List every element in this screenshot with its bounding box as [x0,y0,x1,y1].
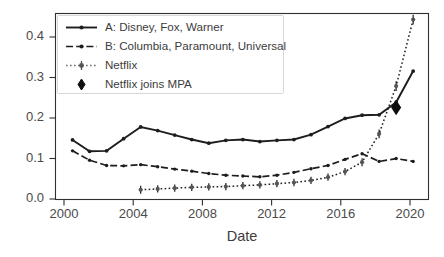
x-tick-label: 2012 [257,206,286,221]
legend: A: Disney, Fox, Warner B: Columbia, Para… [58,16,287,94]
data-point [88,149,92,153]
legend-label-series-b: B: Columbia, Paramount, Universal [105,39,286,52]
data-point [241,184,245,188]
data-point [207,185,211,189]
data-point [326,164,329,167]
data-point [105,149,109,153]
data-point [360,113,364,117]
data-point [360,152,363,155]
data-point [309,133,313,137]
data-point [275,138,279,142]
data-point [224,184,228,188]
data-point [292,171,295,174]
data-point [224,173,227,176]
data-point [292,138,296,142]
legend-label-netflix-joins-mpa: Netflix joins MPA [105,77,192,90]
data-point [258,175,261,178]
x-tick-label: 2016 [326,206,355,221]
y-tick-label: 0.3 [26,69,44,84]
data-point [309,178,313,182]
data-point [292,180,296,184]
data-point [343,117,347,121]
data-point [71,149,74,152]
legend-swatch-marker [79,25,83,29]
x-tick-label: 2004 [119,206,148,221]
data-point [241,174,244,177]
data-point [343,169,347,173]
chart-figure: 0.4 0.3 0.2 0.1 0.0 2000 2004 2008 2012 … [0,0,444,257]
x-tick-label: 2000 [50,206,79,221]
data-point [122,164,125,167]
y-tick-label: 0.0 [26,190,44,205]
data-point [105,164,108,167]
data-point [173,186,177,190]
data-point [173,133,177,137]
data-point [88,158,91,161]
data-point [156,129,160,133]
data-point [411,160,414,163]
data-point [156,165,159,168]
data-point [241,138,245,142]
y-tick-label: 0.2 [26,109,44,124]
data-point [377,160,380,163]
data-point [326,125,330,129]
data-point [377,113,381,117]
x-axis-title: Date [227,228,258,244]
data-point [173,167,176,170]
data-point [190,138,194,142]
data-point [343,158,346,161]
data-point [139,188,143,192]
legend-label-series-a: A: Disney, Fox, Warner [105,20,224,33]
data-point [394,84,398,88]
data-point [275,173,278,176]
data-point [71,138,75,142]
data-point [394,157,397,160]
data-point [139,125,143,129]
data-point [224,138,228,142]
y-tick-label: 0.4 [26,28,44,43]
data-point [122,137,126,141]
data-point [258,140,262,144]
data-point [139,163,142,166]
legend-swatch-marker [79,44,83,48]
data-point [258,183,262,187]
data-point [207,141,211,145]
data-point [326,175,330,179]
data-point [309,167,312,170]
x-tick-label: 2008 [188,206,217,221]
data-point [411,69,415,73]
data-point [207,172,210,175]
data-point [190,169,193,172]
data-point [190,185,194,189]
legend-swatch-marker [79,63,84,68]
data-point [411,17,415,21]
legend-label-netflix: Netflix [105,58,137,71]
line-chart: 0.4 0.3 0.2 0.1 0.0 2000 2004 2008 2012 … [0,0,444,257]
x-tick-label: 2020 [396,206,425,221]
data-point [360,160,364,164]
data-point [156,187,160,191]
data-point [377,132,381,136]
y-tick-label: 0.1 [26,150,44,165]
data-point [275,182,279,186]
